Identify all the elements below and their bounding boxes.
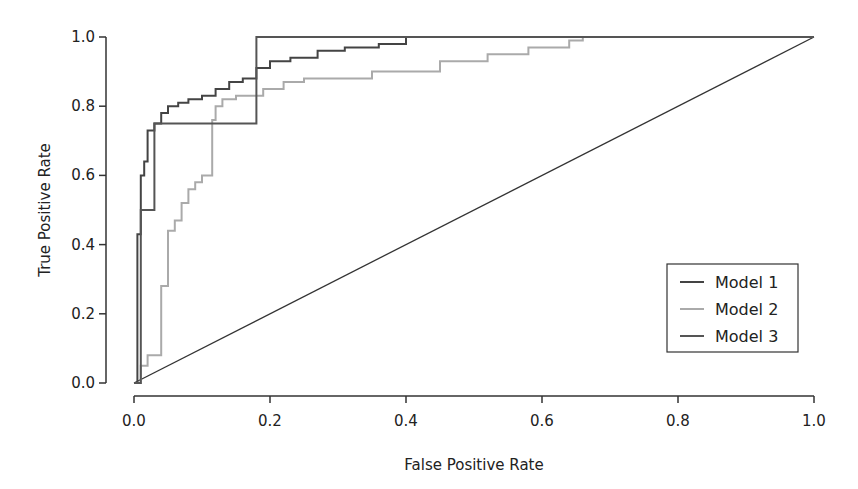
y-tick-label: 0.4 — [71, 236, 95, 254]
legend: Model 1Model 2Model 3 — [667, 264, 798, 352]
x-axis-title: False Positive Rate — [404, 456, 543, 474]
x-tick-label: 0.0 — [122, 412, 146, 430]
x-tick-label: 0.6 — [530, 412, 554, 430]
y-tick-label: 0.0 — [71, 374, 95, 392]
legend-label: Model 3 — [715, 327, 778, 346]
legend-label: Model 2 — [715, 300, 778, 319]
y-tick-label: 0.6 — [71, 166, 95, 184]
x-tick-label: 0.2 — [258, 412, 282, 430]
x-tick-label: 0.4 — [394, 412, 418, 430]
y-tick-label: 0.8 — [71, 97, 95, 115]
y-axis-title: True Positive Rate — [36, 143, 54, 278]
x-tick-label: 1.0 — [802, 412, 826, 430]
y-tick-label: 0.2 — [71, 305, 95, 323]
series-line-model-1 — [134, 37, 528, 383]
axes: 0.00.20.40.60.81.0 0.00.20.40.60.81.0 Fa… — [36, 28, 826, 474]
x-tick-label: 0.8 — [666, 412, 690, 430]
y-ticks: 0.00.20.40.60.81.0 — [71, 28, 106, 392]
y-tick-label: 1.0 — [71, 28, 95, 46]
roc-chart: 0.00.20.40.60.81.0 0.00.20.40.60.81.0 Fa… — [0, 0, 858, 489]
x-ticks: 0.00.20.40.60.81.0 — [122, 396, 826, 430]
legend-label: Model 1 — [715, 273, 778, 292]
